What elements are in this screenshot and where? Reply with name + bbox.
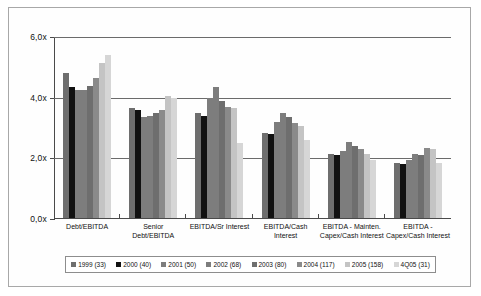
legend-label: 2000 (40)	[123, 261, 151, 268]
x-axis-label: Senior Debt/EBITDA	[120, 223, 186, 240]
bar	[370, 160, 376, 219]
y-axis-tick-label: 0,0x	[30, 214, 47, 224]
legend-item[interactable]: 4Q05 (31)	[394, 261, 430, 268]
legend-swatch-icon	[116, 262, 121, 267]
x-axis-line	[54, 218, 451, 219]
x-axis-label: EBITDA/Sr Interest	[186, 223, 252, 240]
chart-container: 0,0x2,0x4,0x6,0x Debt/EBITDASenior Debt/…	[8, 7, 471, 287]
bar	[171, 98, 177, 219]
bar-group	[120, 37, 186, 219]
bar	[105, 55, 111, 219]
bar-group	[54, 37, 120, 219]
legend-swatch-icon	[161, 262, 166, 267]
legend-item[interactable]: 2000 (40)	[116, 261, 151, 268]
legend-swatch-icon	[206, 262, 211, 267]
legend-swatch-icon	[297, 262, 302, 267]
legend-item[interactable]: 2005 (158)	[345, 261, 383, 268]
bar-group	[253, 37, 319, 219]
plot-area: 0,0x2,0x4,0x6,0x	[54, 37, 451, 219]
x-axis-label: Debt/EBITDA	[54, 223, 120, 240]
y-axis-tick-label: 6,0x	[30, 32, 47, 42]
legend-label: 1999 (33)	[78, 261, 106, 268]
x-axis-label: EBITDA - Mainten. Capex/Cash Interest	[319, 223, 385, 240]
x-axis-labels: Debt/EBITDASenior Debt/EBITDAEBITDA/Sr I…	[54, 223, 451, 240]
legend-swatch-icon	[345, 262, 350, 267]
legend-label: 2004 (117)	[304, 261, 335, 268]
bar-group	[319, 37, 385, 219]
legend-swatch-icon	[252, 262, 257, 267]
bar-group	[186, 37, 252, 219]
chart-legend: 1999 (33)2000 (40)2001 (50)2002 (68)2003…	[65, 256, 436, 273]
legend-label: 2001 (50)	[168, 261, 196, 268]
legend-label: 4Q05 (31)	[401, 261, 430, 268]
x-axis-label: EBITDA - Capex/Cash Interest	[385, 223, 451, 240]
legend-label: 2005 (158)	[352, 261, 383, 268]
bar	[237, 143, 243, 219]
bar-groups	[54, 37, 451, 219]
y-axis-tick	[50, 219, 54, 220]
legend-label: 2003 (80)	[259, 261, 287, 268]
legend-item[interactable]: 2001 (50)	[161, 261, 196, 268]
x-axis-label: EBITDA/Cash Interest	[253, 223, 319, 240]
legend-item[interactable]: 2003 (80)	[252, 261, 287, 268]
legend-item[interactable]: 2004 (117)	[297, 261, 335, 268]
legend-swatch-icon	[71, 262, 76, 267]
y-axis-tick-label: 4,0x	[30, 93, 47, 103]
legend-item[interactable]: 1999 (33)	[71, 261, 106, 268]
bar-group	[385, 37, 451, 219]
legend-swatch-icon	[394, 262, 399, 267]
legend-label: 2002 (68)	[213, 261, 241, 268]
bar	[304, 140, 310, 219]
legend-item[interactable]: 2002 (68)	[206, 261, 241, 268]
y-axis-tick-label: 2,0x	[30, 153, 47, 163]
bar	[436, 163, 442, 219]
